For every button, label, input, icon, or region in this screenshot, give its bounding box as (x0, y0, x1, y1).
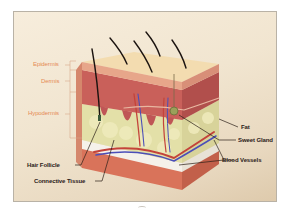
label-blood-vessels: Blood Vessels (222, 157, 261, 164)
label-connective-tissue: Connective Tissue (34, 178, 85, 185)
diagram-frame: Epidermis Dermis Hypodermis Hair Follicl… (13, 11, 277, 202)
label-epidermis: Epidermis (33, 61, 59, 68)
skin-cross-section-illustration (14, 12, 277, 202)
label-hypodermis: Hypodermis (28, 110, 59, 117)
left-side-face (76, 62, 82, 168)
label-dermis: Dermis (41, 78, 59, 85)
bottom-mark (138, 206, 146, 210)
sweat-gland-drawing (170, 107, 178, 115)
label-fat: Fat (241, 124, 250, 131)
label-hair-follicle: Hair Follicle (27, 162, 60, 169)
hair-follicle-bulb (98, 115, 101, 121)
label-sweat-gland: Sweet Gland (238, 137, 273, 144)
